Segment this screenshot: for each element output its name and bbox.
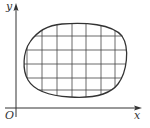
origin-label: O — [5, 110, 14, 121]
grid-lines — [0, 0, 150, 128]
region-boundary — [24, 23, 127, 97]
x-axis — [5, 106, 142, 111]
x-axis-label: x — [134, 110, 140, 121]
y-axis — [14, 3, 19, 117]
y-axis-label: y — [6, 1, 12, 12]
diagram-canvas — [0, 0, 150, 128]
